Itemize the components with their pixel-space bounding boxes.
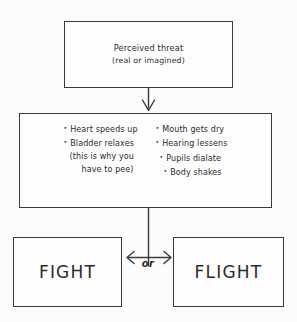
flight-label: FLIGHT	[195, 262, 263, 282]
symptom-column-left: Heart speeds up Bladder relaxes (this is…	[64, 123, 138, 178]
list-item: (this is why you	[64, 152, 138, 163]
symptoms-box: Heart speeds up Bladder relaxes (this is…	[19, 113, 272, 208]
flight-outcome-box: FLIGHT	[173, 237, 284, 307]
fight-label: FIGHT	[39, 262, 96, 282]
list-item: Mouth gets dry	[154, 123, 228, 135]
list-item: Pupils dialate	[154, 152, 228, 164]
perceived-threat-text: Perceived threat (real or imagined)	[112, 43, 185, 66]
symptom-column-right: Mouth gets dry Hearing lessens Pupils di…	[154, 123, 228, 178]
list-item: Heart speeds up	[64, 123, 138, 135]
threat-to-symptoms-arrow	[143, 88, 155, 111]
threat-line-2: (real or imagined)	[112, 55, 185, 67]
list-item: have to pee)	[64, 165, 138, 176]
fight-outcome-box: FIGHT	[13, 237, 122, 307]
perceived-threat-box: Perceived threat (real or imagined)	[64, 21, 233, 88]
or-separator-label: or	[128, 258, 168, 269]
list-item: Bladder relaxes	[64, 137, 138, 149]
flowchart-canvas: Perceived threat (real or imagined) Hear…	[0, 0, 297, 322]
list-item: Body shakes	[154, 166, 228, 178]
threat-line-1: Perceived threat	[112, 43, 185, 55]
list-item: Hearing lessens	[154, 137, 228, 149]
symptom-columns: Heart speeds up Bladder relaxes (this is…	[20, 114, 271, 178]
